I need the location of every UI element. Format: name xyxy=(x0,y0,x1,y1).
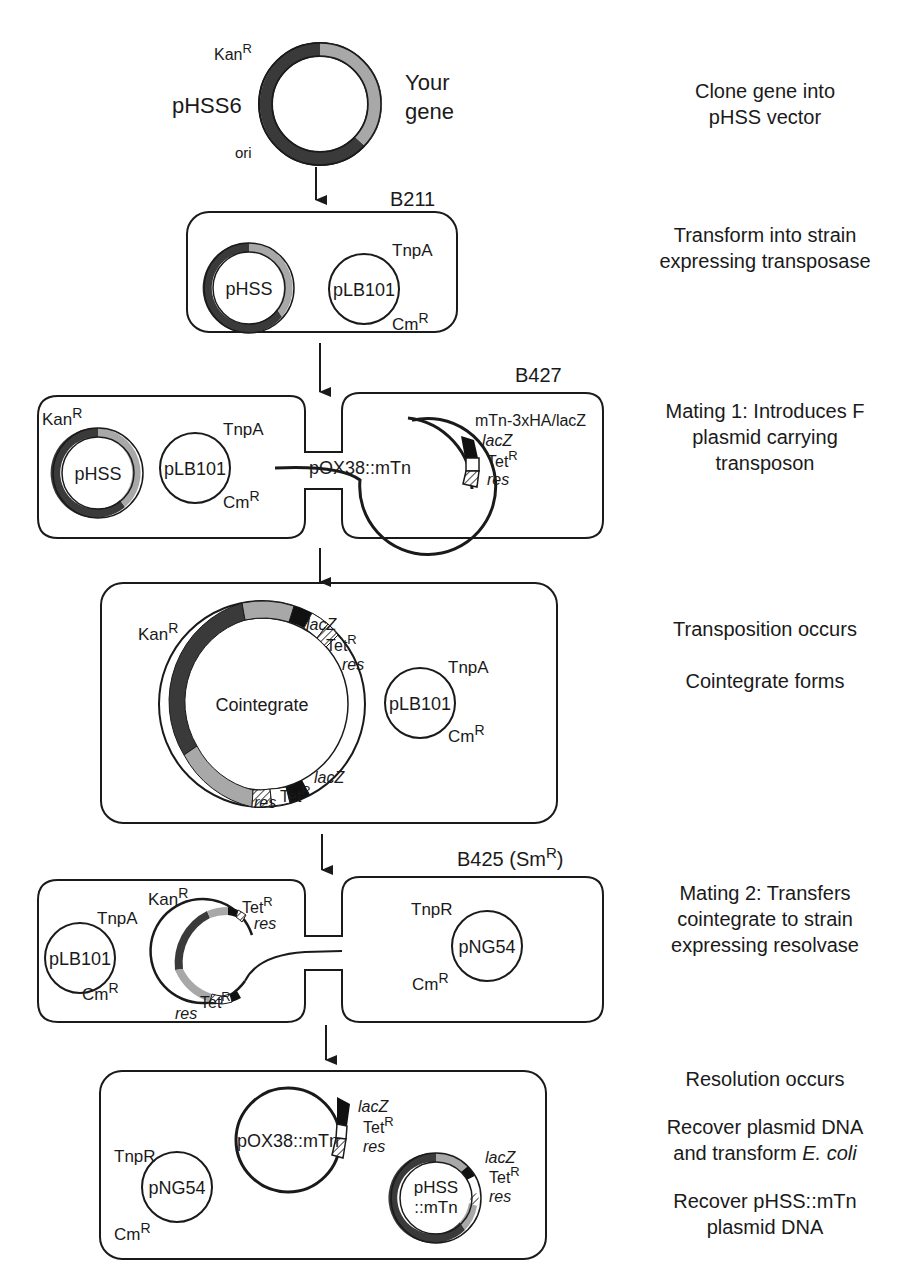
step-text: Mating 2: Transfers xyxy=(628,880,902,906)
step-text: expressing transposase xyxy=(628,248,902,274)
step-text: Resolution occurs xyxy=(628,1066,902,1092)
tnpa-label: TnpA xyxy=(392,241,433,260)
step-text: Mating 1: Introduces F xyxy=(628,398,902,424)
step-transform: Transform into strain expressing transpo… xyxy=(628,222,902,274)
tetr-label: TetR xyxy=(487,448,518,470)
res-label-bottom: res xyxy=(254,794,276,811)
mtn-cassette xyxy=(461,436,479,487)
tnpr-label: TnpR xyxy=(114,1147,156,1166)
phss-label: pHSS xyxy=(225,279,272,299)
png54-label: pNG54 xyxy=(458,937,515,957)
your-gene-label-2: gene xyxy=(405,99,454,124)
cmr-label: CmR xyxy=(223,488,260,512)
cointegrate-label: Cointegrate xyxy=(215,695,308,715)
cmr-label: CmR xyxy=(448,722,485,746)
step-text: pHSS vector xyxy=(640,104,890,130)
plb101-label: pLB101 xyxy=(49,949,111,969)
phss6-label: pHSS6 xyxy=(172,93,242,118)
tnpa-label: TnpA xyxy=(448,658,489,677)
mating-cells-2 xyxy=(38,877,603,1022)
step-mating-2: Mating 2: Transfers cointegrate to strai… xyxy=(628,880,902,958)
step-text: and transform E. coli xyxy=(628,1140,902,1166)
strain-b427-label: B427 xyxy=(515,364,562,386)
cmr-label: CmR xyxy=(114,1220,151,1244)
phss-mtn-label-2: ::mTn xyxy=(414,1198,457,1217)
ori-label: ori xyxy=(235,144,252,161)
step-text: plasmid carrying xyxy=(628,424,902,450)
plb101-label: pLB101 xyxy=(333,280,395,300)
step-text: Transform into strain xyxy=(628,222,902,248)
lacz-label-bottom: lacZ xyxy=(314,769,345,786)
res-label-bottom: res xyxy=(175,1005,197,1022)
tetr-label: TetR xyxy=(363,1114,394,1136)
strain-b425-label: B425 (SmR) xyxy=(457,844,563,870)
step-mating-1: Mating 1: Introduces F plasmid carrying … xyxy=(628,398,902,476)
phss-label: pHSS xyxy=(74,464,121,484)
res-label: res xyxy=(363,1138,385,1155)
kanr-label: KanR xyxy=(214,41,252,63)
pox38-label: pOX38::mTn xyxy=(309,458,411,478)
mtn-label: mTn-3xHA/lacZ xyxy=(475,412,586,429)
png54-label: pNG54 xyxy=(148,1178,205,1198)
res-label: res xyxy=(489,1188,511,1205)
res-label: res xyxy=(487,471,509,488)
step-text: plasmid DNA xyxy=(628,1214,902,1240)
tnpa-label: TnpA xyxy=(97,909,138,928)
res-label-top: res xyxy=(254,915,276,932)
step-resolution: Resolution occurs Recover plasmid DNA an… xyxy=(628,1066,902,1240)
step-clone: Clone gene into pHSS vector xyxy=(640,78,890,130)
lacz-label-top: lacZ xyxy=(306,616,337,633)
step-text: cointegrate to strain xyxy=(628,906,902,932)
cmr-label: CmR xyxy=(392,310,429,334)
step-text: Cointegrate forms xyxy=(628,668,902,694)
tetr-label-top: TetR xyxy=(242,894,273,916)
tetr-label: TetR xyxy=(489,1164,520,1186)
strain-b211-label: B211 xyxy=(390,188,435,210)
step-text: Recover pHSS::mTn xyxy=(628,1188,902,1214)
your-gene-label-1: Your xyxy=(405,70,449,95)
res-label-top: res xyxy=(342,656,364,673)
step-text: Transposition occurs xyxy=(628,616,902,642)
tnpr-label: TnpR xyxy=(411,900,453,919)
phss6-plasmid xyxy=(259,43,382,165)
kanr-label: KanR xyxy=(42,405,82,429)
cell-resolution xyxy=(100,1071,546,1259)
cell-b211 xyxy=(187,212,457,332)
cmr-label: CmR xyxy=(412,970,449,994)
kanr-label: KanR xyxy=(148,885,188,909)
step-text: Recover plasmid DNA xyxy=(628,1114,902,1140)
kanr-label: KanR xyxy=(138,620,178,644)
phss-mtn-label-1: pHSS xyxy=(414,1178,458,1197)
step-text: Clone gene into xyxy=(640,78,890,104)
pox38-label: pOX38::mTn xyxy=(237,1131,339,1151)
step-text: expressing resolvase xyxy=(628,932,902,958)
lacz-label: lacZ xyxy=(482,432,513,449)
cmr-label: CmR xyxy=(82,980,119,1004)
step-transposition: Transposition occurs Cointegrate forms xyxy=(628,616,902,694)
plb101-label: pLB101 xyxy=(389,694,451,714)
step-text: transposon xyxy=(628,450,902,476)
tnpa-label: TnpA xyxy=(223,420,264,439)
lacz-label: lacZ xyxy=(358,1098,389,1115)
plb101-label: pLB101 xyxy=(164,459,226,479)
